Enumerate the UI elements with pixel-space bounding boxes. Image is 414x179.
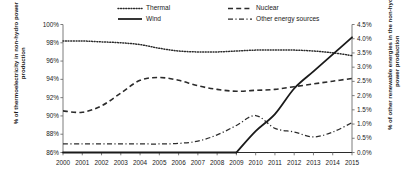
left-axis-tick-100: 100% — [32, 21, 59, 28]
x-axis-tick-2015: 2015 — [340, 159, 364, 166]
series-wind — [63, 37, 352, 152]
right-axis-tick-2-5: 2.5% — [357, 77, 385, 84]
legend-label-nuclear: Nuclear — [256, 4, 279, 11]
left-axis-tick-88: 88% — [32, 130, 59, 137]
right-axis-tick-0-0: 0.0% — [357, 149, 385, 156]
chart-plot-area — [0, 0, 414, 179]
legend-label-wind: Wind — [146, 15, 161, 22]
right-axis-title: % of other renewable energies in the non… — [386, 0, 400, 136]
data-series — [63, 37, 352, 152]
left-axis-tick-92: 92% — [32, 94, 59, 101]
right-axis-tick-2-0: 2.0% — [357, 92, 385, 99]
chart-legend — [118, 9, 252, 20]
axes — [60, 25, 354, 156]
series-other-energy-sources — [63, 115, 352, 144]
legend-label-thermal: Thermal — [146, 4, 170, 11]
left-axis-tick-98: 98% — [32, 39, 59, 46]
right-axis-tick-1-0: 1.0% — [357, 120, 385, 127]
left-axis-title: % of thermoelectricity in non-hydro powe… — [12, 0, 26, 138]
left-axis-tick-86: 86% — [32, 149, 59, 156]
right-axis-tick-0-5: 0.5% — [357, 134, 385, 141]
chart-figure: % of thermoelectricity in non-hydro powe… — [0, 0, 414, 179]
left-axis-tick-94: 94% — [32, 75, 59, 82]
left-axis-tick-96: 96% — [32, 57, 59, 64]
left-axis-tick-90: 90% — [32, 112, 59, 119]
right-axis-tick-3-0: 3.0% — [357, 63, 385, 70]
series-thermal — [63, 41, 352, 56]
right-axis-tick-4-5: 4.5% — [357, 21, 385, 28]
right-axis-tick-3-5: 3.5% — [357, 49, 385, 56]
legend-label-other-energy-sources: Other energy sources — [256, 15, 319, 22]
right-axis-tick-1-5: 1.5% — [357, 106, 385, 113]
right-axis-tick-4-0: 4.0% — [357, 35, 385, 42]
series-nuclear — [63, 78, 352, 113]
